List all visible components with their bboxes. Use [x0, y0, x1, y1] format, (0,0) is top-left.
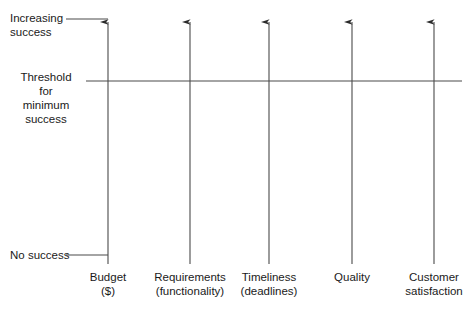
category-label-timeliness: Timeliness (deadlines): [241, 270, 298, 298]
label-no-success: No success: [10, 248, 69, 262]
vertical-axes-group: [108, 22, 434, 264]
category-label-requirements: Requirements (functionality): [154, 270, 226, 298]
diagram-canvas: [0, 0, 473, 310]
label-increasing-success: Increasing success: [10, 11, 63, 39]
category-label-customer-satisfaction: Customer satisfaction: [405, 270, 463, 298]
category-label-budget: Budget ($): [90, 270, 126, 298]
category-label-quality: Quality: [334, 270, 370, 284]
success-criteria-diagram: Increasing success Threshold for minimum…: [0, 0, 473, 310]
label-threshold-for-minimum-success: Threshold for minimum success: [6, 70, 86, 126]
